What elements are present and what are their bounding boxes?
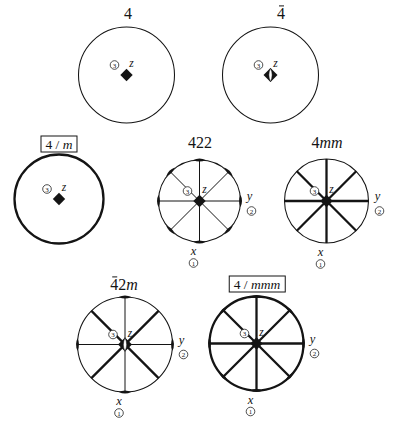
stereogram-pg-422: 3zy2x1 [157,159,256,268]
axis-number-z-digit: 3 [313,188,317,196]
twofold-lens-icon [171,338,174,350]
group-label-part: 4 [311,134,319,151]
group-label-part: 2 [118,276,126,293]
axis-label-z: z [128,57,134,69]
group-label-pg-4m: 4 / m [40,135,77,152]
group-label-pg-4bar: 4 [277,4,285,23]
axis-label-z: z [258,326,264,338]
axis-label-y: y [177,333,185,347]
axis-number-z-digit: 3 [45,186,49,194]
axis-number-y-digit: 2 [378,208,382,216]
axis-number-y-digit: 2 [313,350,317,358]
axis-label-y: y [308,332,316,346]
twofold-lens-icon [119,296,131,299]
twofold-lens-icon [239,195,242,207]
axis-number-z-digit: 3 [257,62,261,70]
axis-number-x-digit: 1 [117,410,121,418]
axis-number-x-digit: 1 [319,261,323,269]
group-label-part: mm [319,134,342,151]
group-label-part: 4 [277,4,285,23]
twofold-lens-icon [76,338,79,350]
group-label-part: 422 [188,134,212,151]
twofold-lens-icon [157,195,160,207]
axis-number-z-digit: 3 [186,188,190,196]
group-label-part: mmm [251,277,280,292]
stereogram-pg-4mm: 3zy2x1 [285,159,384,269]
stereogram-pg-4bar: 3z [223,27,319,123]
axis-label-y: y [373,189,381,203]
axis-label-x: x [115,394,122,408]
axis-label-z: z [272,57,278,69]
axis-number-y-digit: 2 [250,208,254,216]
fourfold-axis-icon [120,69,132,81]
axis-number-z-digit: 3 [113,62,117,70]
axis-label-y: y [245,189,253,203]
group-label-pg-4: 4 [124,4,132,23]
stereograms-layer: 3z3z3z3zy2x13zy2x13zy2x13zy2x1 [0,0,397,422]
group-label-part: 4 [124,5,132,22]
group-label-part: 4 [110,275,118,294]
axis-number-x-digit: 1 [192,260,196,268]
group-label-part: 4 [45,136,52,151]
axis-label-z: z [201,183,207,195]
point-group-stereogram-figure: 3z3z3z3zy2x13zy2x13zy2x13zy2x1444 / m422… [0,0,397,422]
group-label-pg-4mm: 4mm [311,133,342,152]
group-label-pg-422: 422 [188,133,212,152]
axis-label-x: x [247,393,254,407]
axis-number-x-digit: 1 [249,408,253,416]
axis-number-z-digit: 3 [243,330,247,338]
axis-number-z-digit: 3 [111,331,115,339]
stereogram-pg-4mmm: 3zy2x1 [208,295,319,416]
group-label-pg-42m: 42m [110,275,138,294]
stereogram-pg-4: 3z [79,27,175,123]
group-label-part: 4 [234,277,241,292]
group-label-part: / [52,136,63,151]
fourfold-axis-icon [53,193,65,205]
axis-label-z: z [127,327,133,339]
stereogram-pg-42m: 3zy2x1 [76,296,188,418]
axis-label-z: z [328,183,334,195]
group-label-part: m [63,136,73,151]
stereogram-pg-4m: 3z [15,155,104,244]
group-label-pg-4mmm: 4 / mmm [229,276,286,293]
group-label-part: m [126,276,138,293]
twofold-lens-icon [193,159,205,162]
axis-label-x: x [190,244,197,258]
axis-label-x: x [317,245,324,259]
axis-label-z: z [61,181,67,193]
group-label-part: / [240,277,251,292]
axis-number-y-digit: 2 [182,351,186,359]
